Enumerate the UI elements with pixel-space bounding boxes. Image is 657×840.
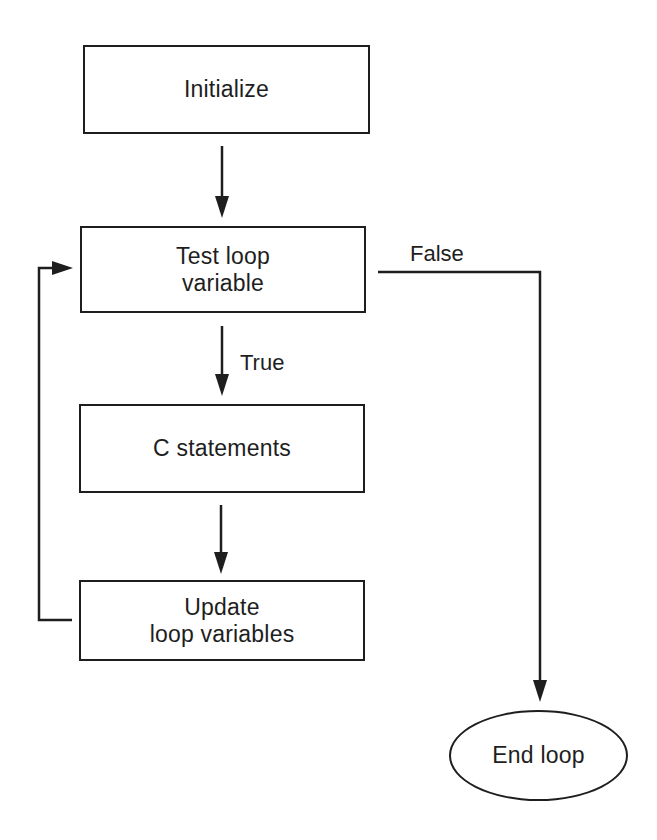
node-end-loop: End loop: [449, 710, 628, 801]
node-update-loop-variables: Update loop variables: [79, 580, 365, 661]
node-c-statements: C statements: [79, 404, 365, 493]
arrow-statements-to-update: [214, 505, 228, 574]
node-end-label: End loop: [492, 742, 584, 769]
node-update-label-line-2: loop variables: [150, 621, 295, 648]
node-initialize: Initialize: [83, 45, 370, 134]
node-initialize-label: Initialize: [184, 76, 269, 103]
arrow-update-to-test-loopback: [39, 261, 73, 620]
arrow-initialize-to-test: [215, 146, 229, 218]
node-test-loop-variable: Test loop variable: [80, 226, 366, 313]
node-test-label-line-2: variable: [182, 270, 264, 297]
arrow-test-to-end-false: [378, 272, 547, 702]
arrow-test-to-statements: [215, 326, 229, 396]
edge-label-false: False: [410, 242, 464, 266]
node-test-label-line-1: Test loop: [176, 243, 270, 270]
node-update-label-line-1: Update: [184, 594, 259, 621]
edge-label-true: True: [240, 351, 284, 375]
node-statements-label: C statements: [153, 435, 291, 462]
